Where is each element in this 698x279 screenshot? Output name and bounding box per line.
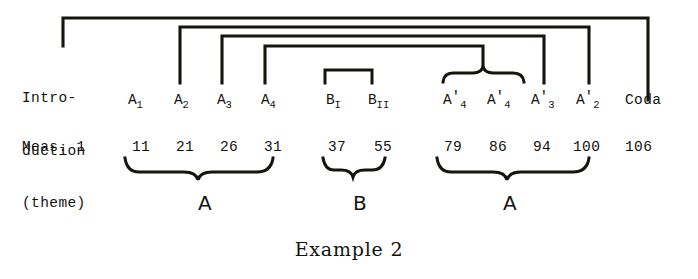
- section-label-A4p2: A'4: [487, 93, 511, 108]
- curly-brace-group-a2: [437, 158, 589, 180]
- section-label-A4: A4: [261, 93, 276, 108]
- connector-a3-to-a3prime: [222, 36, 544, 83]
- measure-number-21: 21: [176, 140, 194, 155]
- connector-intro-to-coda: [63, 18, 648, 100]
- section-label-base: A: [174, 92, 183, 108]
- figure-caption: Example 2: [0, 240, 698, 259]
- curly-brace-group-a1: [125, 158, 273, 180]
- section-label-base: A: [576, 92, 585, 108]
- section-label-Coda: Coda: [625, 93, 661, 108]
- section-label-A2p: A'2: [576, 93, 600, 108]
- bracket-b-group: [325, 70, 372, 83]
- section-label-prime: ': [496, 89, 505, 105]
- measure-number-37: 37: [328, 140, 346, 155]
- section-label-subscript: 4: [504, 99, 510, 111]
- section-label-prime: ': [452, 89, 461, 105]
- measure-number-94: 94: [533, 140, 551, 155]
- section-label-A3p: A'3: [531, 93, 555, 108]
- measure-number-55: 55: [374, 140, 392, 155]
- example-2-form-diagram: Intro- duction (theme) Meas. 1 A1A2A3A4B…: [0, 0, 698, 279]
- section-label-subscript: 2: [593, 99, 599, 111]
- measure-number-79: 79: [444, 140, 462, 155]
- measure-number-26: 26: [220, 140, 238, 155]
- section-label-A1: A1: [128, 93, 143, 108]
- measure-axis-label: Meas. 1: [22, 140, 86, 155]
- section-label-base: A: [487, 92, 496, 108]
- group-letter-1: B: [353, 193, 367, 213]
- section-label-subscript: 1: [137, 99, 143, 111]
- section-label-prime: ': [540, 89, 549, 105]
- group-letter-2: A: [503, 193, 517, 213]
- measure-number-106: 106: [625, 140, 652, 155]
- section-label-base: A: [128, 92, 137, 108]
- measure-number-100: 100: [573, 140, 600, 155]
- introduction-line-3: (theme): [22, 195, 86, 213]
- section-label-subscript: 3: [226, 99, 232, 111]
- section-label-base: B: [326, 92, 335, 108]
- section-label-subscript: 3: [548, 99, 554, 111]
- curly-brace-group-b: [323, 158, 385, 177]
- section-label-base: A: [443, 92, 452, 108]
- section-label-base: A: [261, 92, 270, 108]
- section-label-BI: BI: [326, 93, 341, 108]
- section-label-A3: A3: [217, 93, 232, 108]
- section-label-BII: BII: [368, 93, 390, 108]
- measure-number-31: 31: [264, 140, 282, 155]
- measure-number-86: 86: [489, 140, 507, 155]
- section-label-subscript: 4: [460, 99, 466, 111]
- section-label-base: A: [217, 92, 226, 108]
- section-label-prime: ': [585, 89, 594, 105]
- section-label-base: Coda: [625, 92, 661, 108]
- section-label-subscript: I: [335, 99, 341, 111]
- section-label-A2: A2: [174, 93, 189, 108]
- section-label-subscript: II: [377, 99, 390, 111]
- group-letter-0: A: [198, 193, 212, 213]
- introduction-line-1: Intro-: [22, 90, 86, 108]
- section-label-A4p: A'4: [443, 93, 467, 108]
- section-label-subscript: 2: [183, 99, 189, 111]
- section-label-subscript: 4: [270, 99, 276, 111]
- section-label-base: A: [531, 92, 540, 108]
- connector-a4-to-a4prime-pair: [265, 46, 483, 83]
- section-label-base: B: [368, 92, 377, 108]
- measure-number-11: 11: [132, 140, 150, 155]
- curly-brace-a4prime-pair: [443, 66, 524, 82]
